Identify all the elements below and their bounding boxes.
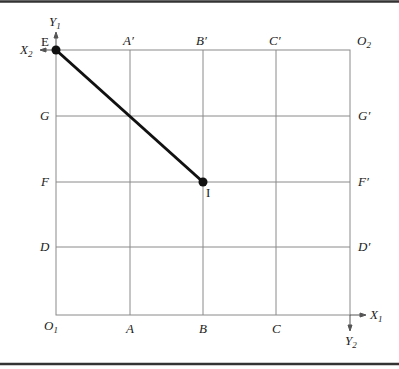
left-label-d: D (39, 239, 50, 254)
y2-axis-label: Y2 (345, 333, 357, 350)
right-label-f-prime: F′ (357, 174, 369, 189)
x1-arrowhead-icon (360, 313, 366, 317)
diagram-canvas: E I Y1 X2 X1 Y2 O1 O2 A′ B′ C′ A B C G F… (0, 0, 399, 369)
point-e-label: E (41, 34, 49, 49)
top-label-a-prime: A′ (122, 33, 134, 48)
point-i-label: I (206, 185, 210, 200)
origin2-label: O2 (357, 33, 371, 50)
y1-axis-label: Y1 (49, 14, 61, 31)
point-e-marker (52, 46, 61, 55)
x1-axis-label: X1 (369, 307, 382, 324)
left-label-g: G (40, 108, 50, 123)
right-label-g-prime: G′ (358, 108, 370, 123)
top-label-b-prime: B′ (196, 33, 207, 48)
y1-arrowhead-icon (54, 32, 58, 38)
origin1-label: O1 (44, 318, 58, 335)
y2-arrowhead-icon (348, 325, 352, 331)
top-label-c-prime: C′ (269, 33, 281, 48)
x2-axis-label: X2 (19, 42, 33, 59)
bottom-label-b: B (199, 321, 207, 336)
bottom-label-a: A (125, 321, 134, 336)
left-label-f: F (40, 174, 50, 189)
right-label-d-prime: D′ (357, 239, 370, 254)
bottom-label-c: C (272, 321, 281, 336)
